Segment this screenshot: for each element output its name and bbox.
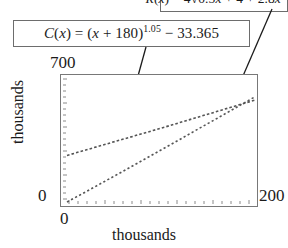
textbook-figure: R(x) = 4√0.5x + 4 + 2.8x − 8 C(x) = (x +… bbox=[0, 0, 288, 248]
plot-canvas bbox=[61, 75, 257, 206]
x-axis-ticks bbox=[69, 200, 249, 204]
revenue-curve bbox=[67, 97, 255, 202]
x-axis-title: thousands bbox=[0, 226, 288, 244]
plot-area bbox=[60, 74, 258, 207]
y-axis-max-label: 700 bbox=[50, 53, 76, 73]
y-axis-title: thousands bbox=[9, 66, 27, 158]
y-axis-zero-label: 0 bbox=[38, 186, 47, 206]
cost-curve bbox=[67, 100, 255, 155]
y-axis-ticks bbox=[63, 79, 67, 199]
x-axis-max-label: 200 bbox=[259, 186, 285, 206]
